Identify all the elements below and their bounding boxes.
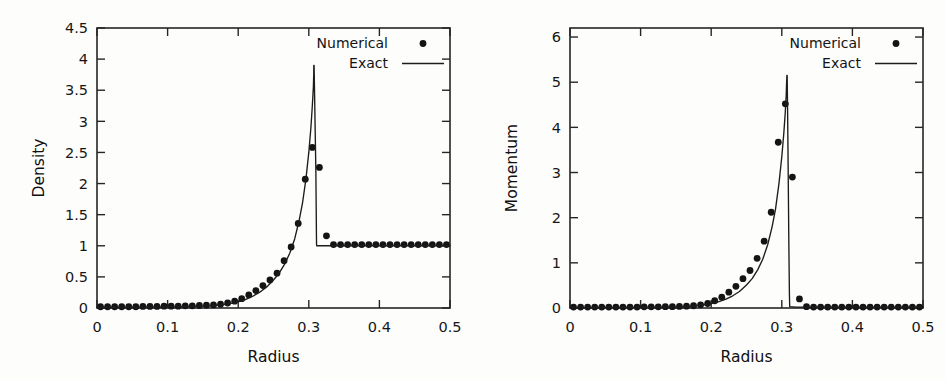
x-tick-label: 0 — [92, 319, 101, 335]
data-point — [768, 209, 775, 216]
data-point — [761, 238, 768, 245]
data-point — [316, 164, 323, 171]
data-point — [775, 139, 782, 146]
y-tick-label: 6 — [552, 29, 561, 45]
x-tick-label: 0.2 — [700, 319, 723, 335]
data-point — [330, 241, 337, 248]
data-point — [740, 275, 747, 282]
x-tick-label: 0.1 — [156, 319, 179, 335]
legend: NumericalExact — [790, 35, 917, 71]
y-tick-label: 3 — [552, 165, 561, 181]
data-point — [358, 241, 365, 248]
y-tick-label: 0 — [552, 300, 561, 316]
data-point — [789, 174, 796, 181]
data-point — [443, 241, 450, 248]
y-tick-label: 0 — [79, 300, 88, 316]
y-tick-label: 0.5 — [65, 269, 88, 285]
data-point — [754, 255, 761, 262]
y-tick-label: 2 — [552, 210, 561, 226]
data-point — [380, 241, 387, 248]
x-tick-label: 0.1 — [629, 319, 652, 335]
x-tick-label: 0.3 — [770, 319, 793, 335]
data-point — [387, 241, 394, 248]
data-point — [733, 283, 740, 290]
data-point — [337, 241, 344, 248]
data-point — [429, 241, 436, 248]
legend: NumericalExact — [317, 35, 444, 71]
data-point — [796, 296, 803, 303]
x-tick-label: 0.4 — [841, 319, 864, 335]
y-tick-label: 3 — [79, 114, 88, 130]
y-axis-title: Momentum — [503, 124, 521, 212]
legend-label-numerical: Numerical — [317, 35, 388, 51]
x-tick-label: 0.2 — [227, 319, 250, 335]
data-point — [161, 303, 168, 310]
data-point — [344, 241, 351, 248]
series-line-exact — [570, 75, 923, 307]
data-point — [267, 277, 274, 284]
x-axis: 00.10.20.30.40.5 — [565, 28, 934, 335]
y-tick-label: 4 — [79, 51, 88, 67]
chart-panel-momentum: 012345600.10.20.30.40.5RadiusMomentumNum… — [473, 0, 946, 380]
series-line-exact — [97, 65, 450, 307]
density-plot: 00.511.522.533.544.500.10.20.30.40.5Radi… — [0, 0, 473, 380]
x-tick-label: 0.3 — [297, 319, 320, 335]
y-tick-label: 1 — [79, 238, 88, 254]
data-point — [323, 232, 330, 239]
y-axis: 00.511.522.533.544.5 — [65, 20, 450, 316]
plot-frame — [570, 28, 923, 308]
data-point — [415, 241, 422, 248]
data-point — [422, 241, 429, 248]
x-axis-title: Radius — [248, 348, 300, 366]
legend-label-numerical: Numerical — [790, 35, 861, 51]
y-tick-label: 4.5 — [65, 20, 88, 36]
data-point — [394, 241, 401, 248]
data-point — [408, 241, 415, 248]
y-tick-label: 1 — [552, 255, 561, 271]
x-tick-label: 0.5 — [438, 319, 461, 335]
data-point — [372, 241, 379, 248]
y-tick-label: 4 — [552, 120, 561, 136]
y-tick-label: 3.5 — [65, 82, 88, 98]
chart-panel-density: 00.511.522.533.544.500.10.20.30.40.5Radi… — [0, 0, 473, 380]
y-tick-label: 5 — [552, 74, 561, 90]
data-point — [351, 241, 358, 248]
data-point — [436, 241, 443, 248]
y-axis-title: Density — [30, 139, 48, 198]
data-point — [365, 241, 372, 248]
data-point — [401, 241, 408, 248]
y-tick-label: 1.5 — [65, 207, 88, 223]
y-tick-label: 2.5 — [65, 145, 88, 161]
figure-container: 00.511.522.533.544.500.10.20.30.40.5Radi… — [0, 0, 946, 380]
momentum-plot: 012345600.10.20.30.40.5RadiusMomentumNum… — [473, 0, 946, 380]
series-points-numerical — [570, 100, 923, 310]
series-points-numerical — [97, 144, 450, 310]
legend-label-exact: Exact — [822, 55, 861, 71]
data-point — [182, 302, 189, 309]
x-tick-label: 0.5 — [911, 319, 934, 335]
legend-swatch-dot — [893, 40, 900, 47]
x-tick-label: 0.4 — [368, 319, 391, 335]
x-axis: 00.10.20.30.40.5 — [92, 28, 461, 335]
data-point — [747, 267, 754, 274]
y-tick-label: 2 — [79, 176, 88, 192]
x-tick-label: 0 — [565, 319, 574, 335]
x-axis-title: Radius — [721, 348, 773, 366]
data-point — [725, 289, 732, 296]
legend-label-exact: Exact — [349, 55, 388, 71]
legend-swatch-dot — [420, 40, 427, 47]
y-axis: 0123456 — [552, 29, 923, 316]
plot-frame — [97, 28, 450, 308]
